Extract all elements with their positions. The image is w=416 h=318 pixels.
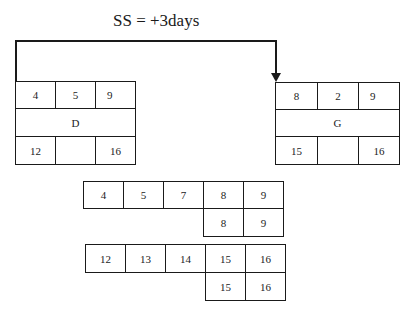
node-d-name: D: [15, 108, 136, 137]
node-d-es: 4: [15, 81, 56, 109]
node-g-ls: 15: [275, 136, 318, 165]
early-day-cell: 7: [163, 181, 204, 209]
late-sub-cell: 15: [205, 272, 246, 301]
node-g-ef: 9: [358, 82, 400, 110]
connector-vertical-left: [15, 40, 17, 82]
node-d-ls: 12: [15, 136, 56, 165]
connector-horizontal: [15, 40, 276, 42]
node-d-ef: 9: [95, 81, 136, 109]
lag-label: SS = +3days: [113, 11, 199, 31]
node-g-es: 8: [275, 82, 318, 110]
late-day-cell: 12: [85, 244, 126, 273]
node-g-name: G: [275, 109, 400, 137]
connector-vertical-right: [275, 40, 277, 74]
node-d-float: [55, 136, 96, 165]
late-day-cell: 16: [245, 244, 286, 273]
early-day-cell: 5: [123, 181, 164, 209]
arrow-down-icon: [271, 73, 281, 82]
late-day-cell: 13: [125, 244, 166, 273]
node-g-float: [317, 136, 359, 165]
node-g-duration: 2: [317, 82, 359, 110]
node-d-lf: 16: [95, 136, 136, 165]
early-sub-cell: 9: [243, 208, 284, 237]
node-d-duration: 5: [55, 81, 96, 109]
early-day-cell: 8: [203, 181, 244, 209]
node-g-lf: 16: [358, 136, 400, 165]
early-day-cell: 4: [83, 181, 124, 209]
late-sub-cell: 16: [245, 272, 286, 301]
late-day-cell: 14: [165, 244, 206, 273]
early-sub-cell: 8: [203, 208, 244, 237]
late-day-cell: 15: [205, 244, 246, 273]
early-day-cell: 9: [243, 181, 284, 209]
